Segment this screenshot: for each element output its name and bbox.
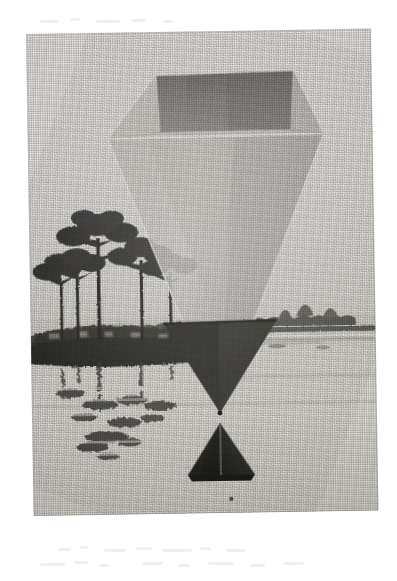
paper-grain (26, 29, 379, 516)
page-root (0, 0, 397, 581)
photograph-plate (26, 29, 379, 516)
